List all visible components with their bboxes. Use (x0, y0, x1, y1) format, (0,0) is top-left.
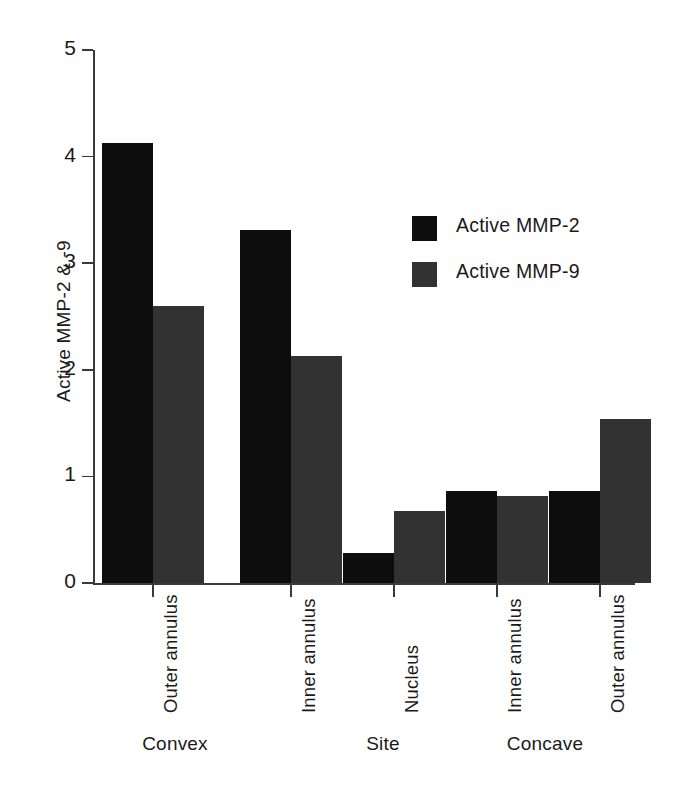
x-tick-mark (496, 584, 498, 597)
bar (291, 356, 342, 583)
bar (240, 230, 291, 583)
y-tick-label-text: 4 (48, 144, 76, 165)
y-tick-label-text: 0 (48, 570, 76, 591)
bar (446, 491, 497, 583)
y-tick-mark (82, 369, 93, 371)
y-tick-mark (82, 49, 93, 51)
x-tick-mark (599, 584, 601, 597)
x-tick-mark (393, 584, 395, 597)
y-tick-label: 5 (42, 37, 76, 59)
bar (343, 553, 394, 583)
bar (549, 491, 600, 583)
legend-label-mmp2: Active MMP-2 (456, 214, 580, 237)
y-tick-label: 3 (42, 250, 76, 272)
x-group-label: Concave (475, 733, 615, 755)
x-tick-mark (152, 584, 154, 597)
x-tick-label: Nucleus (401, 645, 423, 713)
x-tick-label: Inner annulus (504, 598, 526, 713)
y-tick-label-text: 2 (48, 357, 76, 378)
y-tick-mark (82, 156, 93, 158)
x-tick-label: Outer annulus (160, 594, 182, 713)
bar (153, 306, 204, 583)
x-tick-label: Outer annulus (607, 594, 629, 713)
y-tick-label: 4 (42, 144, 76, 166)
legend-label-mmp9: Active MMP-9 (456, 260, 580, 283)
y-tick-mark (82, 582, 93, 584)
x-axis-line (93, 583, 635, 585)
bar (600, 419, 651, 583)
legend-swatch-mmp2 (412, 216, 437, 241)
y-axis-title: Active MMP-2 & -9 (53, 171, 75, 471)
bar (497, 496, 548, 583)
x-tick-mark (290, 584, 292, 597)
x-tick-label: Inner annulus (298, 598, 320, 713)
legend-swatch-mmp9 (412, 262, 437, 287)
plot-area (93, 50, 635, 583)
x-group-label: Convex (105, 733, 245, 755)
y-tick-label-text: 3 (48, 250, 76, 271)
bar (394, 511, 445, 583)
y-tick-label: 2 (42, 357, 76, 379)
bar (102, 143, 153, 583)
x-group-label: Site (313, 733, 453, 755)
y-tick-mark (82, 262, 93, 264)
y-tick-label-text: 5 (48, 37, 76, 58)
y-tick-label: 0 (42, 570, 76, 592)
y-tick-mark (82, 476, 93, 478)
y-tick-label: 1 (42, 463, 76, 485)
bar-chart: Active MMP-2 & -9 012345 Outer annulusIn… (0, 0, 675, 800)
y-tick-label-text: 1 (48, 463, 76, 484)
